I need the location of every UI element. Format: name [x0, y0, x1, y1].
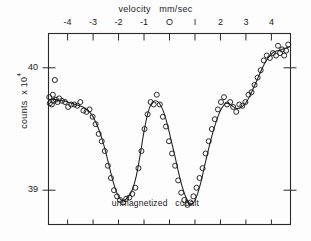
mossbauer-spectrum-figure: velocity mm/sec counts x 104 -4-3-2-1OI2… [0, 0, 311, 241]
fit-curve [49, 47, 290, 204]
axis-ticks [43, 34, 297, 225]
plot-annotation: unmagnetized cobalt [112, 198, 199, 208]
plot-frame [49, 34, 291, 225]
data-points [47, 42, 291, 207]
